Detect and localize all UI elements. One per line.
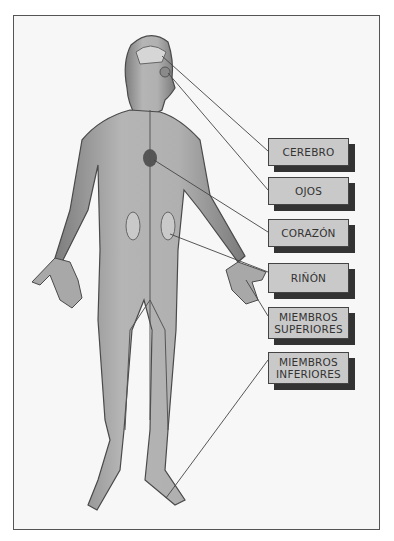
- label-text: CORAZÓN: [281, 227, 335, 239]
- label-rinon: RIÑÓN: [268, 263, 349, 293]
- label-text: INFERIORES: [276, 368, 341, 380]
- label-text: SUPERIORES: [274, 323, 343, 335]
- label-text: OJOS: [295, 185, 322, 197]
- label-ojos: OJOS: [268, 177, 349, 205]
- label-corazon: CORAZÓN: [268, 219, 349, 247]
- label-cerebro: CEREBRO: [268, 138, 349, 166]
- label-text: RIÑÓN: [291, 272, 326, 284]
- label-text: CEREBRO: [282, 146, 334, 158]
- label-miembros-inferiores: MIEMBROS INFERIORES: [268, 352, 349, 384]
- label-text: MIEMBROS: [279, 311, 338, 323]
- label-text: MIEMBROS: [279, 356, 338, 368]
- label-miembros-superiores: MIEMBROS SUPERIORES: [268, 307, 349, 339]
